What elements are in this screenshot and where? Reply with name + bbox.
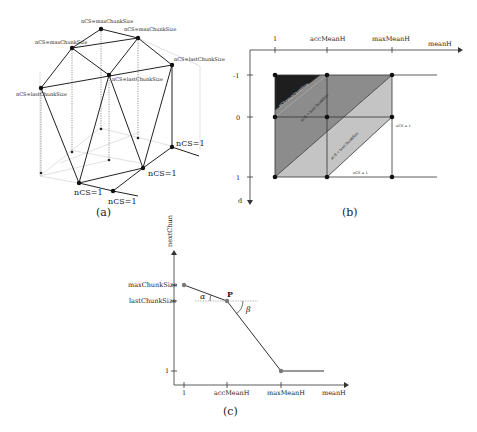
label-mid-3: nCS=lastChunkSize — [174, 56, 225, 62]
label-mid-1: nCS=lastChunkSize — [16, 91, 67, 97]
label-bottom-4: nCS=1 — [108, 197, 137, 206]
region-label-right-bottom: nCS = 1 — [353, 171, 368, 175]
x-tick-1: 1 — [273, 35, 277, 43]
point-p-label: P — [227, 289, 233, 299]
x-axis-label: meanH — [428, 40, 452, 48]
x-tick-maxmeanh: maxMeanH — [267, 389, 305, 397]
label-bottom-2: nCS=1 — [148, 169, 177, 178]
y-axis-label: d — [238, 197, 242, 205]
panel-a-3d-surface: nCS=maxChunkSize nCS=maxChunkSize nCS=ma… — [0, 0, 240, 220]
panel-c: maxChunkSize lastChunkSize 1 1 accMeanH … — [110, 215, 350, 432]
x-tick-accmeanh: accMeanH — [310, 35, 346, 43]
label-top-1: nCS=maxChunkSize — [81, 18, 133, 24]
caption-c: (c) — [223, 405, 238, 418]
y-arrow-icon — [171, 250, 177, 255]
beta-label: β — [245, 305, 251, 314]
alpha-arc — [210, 295, 211, 301]
panel-b: 1 accMeanH maxMeanH meanH -1 0 1 d nCS=m… — [230, 0, 477, 220]
y-tick-maxchunksize: maxChunkSize — [128, 281, 177, 289]
beta-arc — [236, 301, 243, 314]
y-axis-label: nextChunkSize — [166, 215, 174, 247]
panel-a: nCS=maxChunkSize nCS=maxChunkSize nCS=ma… — [0, 0, 240, 220]
x-axis-label: meanH — [322, 389, 346, 397]
x-tick-1: 1 — [182, 389, 186, 397]
label-top-3: nCS=maxChunkSize — [35, 39, 87, 45]
alpha-label: α — [200, 292, 206, 301]
x-arrow-icon — [458, 47, 463, 53]
label-bottom-1: nCS=1 — [176, 139, 205, 148]
x-tick-maxmeanh: maxMeanH — [372, 35, 410, 43]
region-label-right-mid: nCS = 1 — [396, 124, 411, 128]
panel-b-region-map: 1 accMeanH maxMeanH meanH -1 0 1 d nCS=m… — [230, 0, 477, 220]
label-bottom-3: nCS=1 — [74, 188, 103, 197]
y-tick-0: 0 — [236, 114, 240, 122]
x-tick-accmeanh: accMeanH — [214, 389, 250, 397]
y-tick-1: 1 — [236, 174, 240, 182]
panel-c-line-chart: maxChunkSize lastChunkSize 1 1 accMeanH … — [110, 215, 350, 432]
label-mid-2: nCS=lastChunkSize — [112, 76, 163, 82]
y-tick-1: 1 — [165, 367, 169, 375]
y-arrow-icon — [247, 200, 253, 205]
x-arrow-icon — [344, 382, 349, 388]
y-tick-minus1: -1 — [233, 72, 239, 80]
y-tick-lastchunksize: lastChunkSize — [129, 297, 176, 305]
label-top-2: nCS=maxChunkSize — [124, 26, 176, 32]
caption-a: (a) — [96, 206, 111, 219]
